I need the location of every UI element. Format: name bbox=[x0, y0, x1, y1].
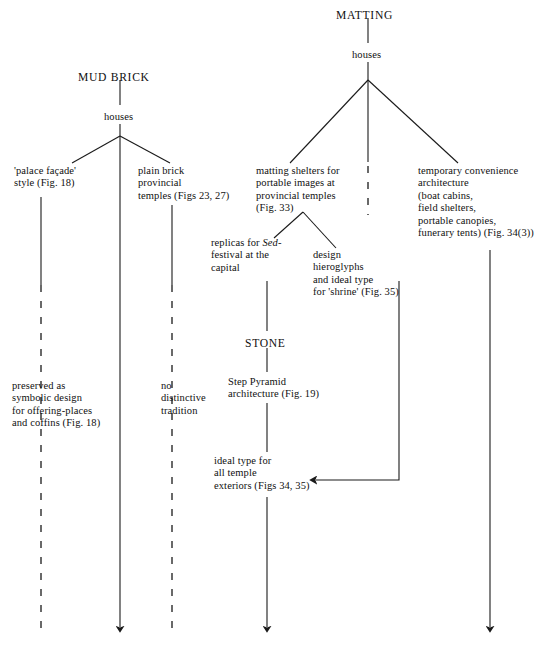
matting-heading: MATTING bbox=[336, 10, 393, 22]
edge-matting-junction-to-shelters bbox=[290, 80, 368, 163]
matting-shelters-node: matting shelters for portable images at … bbox=[256, 165, 340, 215]
edge-matting-junction-to-temporary bbox=[368, 80, 458, 163]
edge-junction-to-palace-facade bbox=[72, 136, 120, 163]
stone-heading: STONE bbox=[245, 338, 286, 350]
ideal-type-temple-exteriors-node: ideal type for all temple exteriors (Fig… bbox=[214, 455, 310, 492]
replicas-sed-festival-node: replicas for Sed- festival at the capita… bbox=[211, 237, 282, 274]
mud-brick-heading: MUD BRICK bbox=[78, 72, 150, 84]
palace-facade-node: 'palace façade' style (Fig. 18) bbox=[14, 165, 76, 190]
mud-brick-houses-node: houses bbox=[104, 111, 133, 123]
design-hieroglyphs-node: design hieroglyphs and ideal type for 's… bbox=[313, 249, 399, 299]
edge-shelters-junction-to-replicas bbox=[274, 212, 303, 238]
plain-brick-provincial-temples-node: plain brick provincial temples (Figs 23,… bbox=[138, 165, 229, 202]
edge-design-elbow-to-ideal bbox=[316, 281, 399, 480]
sed-italic-term: Sed- bbox=[262, 237, 281, 248]
preserved-symbolic-design-node: preserved as symbolic design for offerin… bbox=[12, 380, 100, 430]
temporary-convenience-architecture-node: temporary convenience architecture (boat… bbox=[418, 165, 534, 239]
step-pyramid-architecture-node: Step Pyramid architecture (Fig. 19) bbox=[228, 376, 319, 401]
diagram-canvas: MUD BRICK houses 'palace façade' style (… bbox=[0, 0, 558, 653]
matting-houses-node: houses bbox=[352, 49, 381, 61]
edge-junction-to-plain-brick bbox=[120, 136, 170, 163]
diagram-connector-layer bbox=[0, 0, 558, 653]
edge-shelters-junction-to-design bbox=[303, 212, 336, 248]
no-distinctive-tradition-node: no distinctive tradition bbox=[161, 380, 206, 417]
